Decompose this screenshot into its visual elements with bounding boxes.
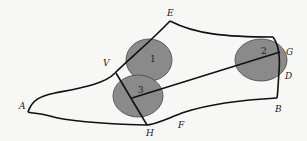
point-label-g: G [286,47,293,57]
point-label-v: V [103,58,111,68]
circle-3-label: 3 [138,85,144,95]
point-label-d: D [284,71,292,81]
circle-1 [126,39,172,81]
circle-2-label: 2 [261,46,267,56]
edge-a-v [28,73,115,112]
point-label-b: B [274,104,282,114]
point-label-e: E [166,8,174,18]
point-label-f: F [177,120,185,130]
edge-e-top [170,21,273,37]
edge-b-f-h [146,98,277,125]
shoe-pattern-diagram: 1 2 3 E V A H F B D G [0,0,307,141]
circle-1-label: 1 [150,54,156,64]
point-label-h: H [145,128,154,138]
point-label-a: A [18,101,26,111]
